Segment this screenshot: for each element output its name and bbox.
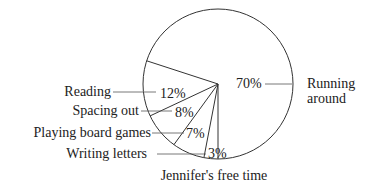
label-running-around-2: around — [307, 91, 346, 106]
label-writing-letters: Writing letters — [66, 146, 147, 161]
pct-board-games: 7% — [186, 126, 205, 141]
label-reading: Reading — [64, 84, 111, 99]
chart-title: Jennifer's free time — [161, 168, 268, 183]
pct-writing-letters: 3% — [208, 146, 227, 161]
pie-chart: 70% 12% 8% 7% 3% Running around Reading … — [0, 0, 384, 184]
label-board-games: Playing board games — [34, 125, 151, 140]
pct-spacing-out: 8% — [175, 105, 194, 120]
label-spacing-out: Spacing out — [73, 103, 140, 118]
pct-running-around: 70% — [236, 76, 262, 91]
label-running-around-1: Running — [307, 76, 355, 91]
pct-reading: 12% — [160, 86, 186, 101]
